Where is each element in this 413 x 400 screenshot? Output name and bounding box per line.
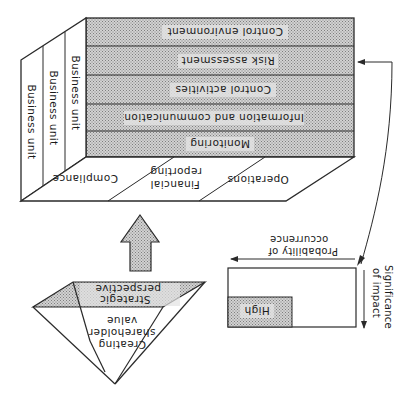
svg-text:Control activities: Control activities (175, 84, 271, 96)
curve-end-arrowhead-icon (357, 255, 365, 266)
svg-text:Information and communication: Information and communication (124, 112, 304, 124)
component-information-communication: Information and communication (124, 111, 304, 125)
coso-cube: Control environment Risk assessment Cont… (21, 18, 354, 201)
unit-label-3: Business unit (70, 55, 82, 130)
component-control-environment: Control environment (162, 25, 288, 39)
component-risk-assessment: Risk assessment (178, 54, 278, 68)
significance-label-line1: Significance (383, 265, 394, 329)
unit-label-1: Business unit (26, 84, 38, 159)
svg-text:Risk assessment: Risk assessment (181, 55, 274, 67)
probability-label-line2: occurrence (270, 234, 328, 245)
unit-label-2: Business unit (48, 70, 60, 145)
risk-high-label: High (244, 305, 270, 317)
curved-connector-arrow (358, 62, 392, 264)
strategy-pyramid: Strategic perspective Creating sharehold… (33, 282, 205, 384)
risk-matrix: High Probability of occurrence Significa… (228, 234, 394, 330)
probability-label-line1: Probability of (268, 246, 338, 257)
pyramid-perspective: perspective (95, 283, 161, 295)
pyramid-value: value (107, 315, 138, 327)
objective-operations: Operations (227, 174, 289, 186)
svg-text:Monitoring: Monitoring (190, 138, 250, 150)
significance-label-line2: of impact (371, 268, 382, 318)
up-arrow-icon (121, 215, 159, 271)
coso-diagram: Control environment Risk assessment Cont… (0, 0, 413, 400)
objective-financial-line2: reporting (150, 166, 202, 178)
svg-text:Control environment: Control environment (167, 26, 283, 38)
pyramid-shareholder: shareholder (88, 327, 155, 339)
objective-compliance: Compliance (52, 173, 118, 185)
component-control-activities: Control activities (170, 83, 276, 97)
pyramid-creating: Creating (98, 339, 146, 351)
objective-financial-line1: Financial (150, 179, 200, 191)
component-monitoring: Monitoring (186, 137, 254, 151)
